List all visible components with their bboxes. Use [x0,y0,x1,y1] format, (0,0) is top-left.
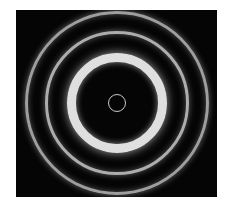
ring-center [108,94,126,112]
diffraction-image [16,10,217,197]
